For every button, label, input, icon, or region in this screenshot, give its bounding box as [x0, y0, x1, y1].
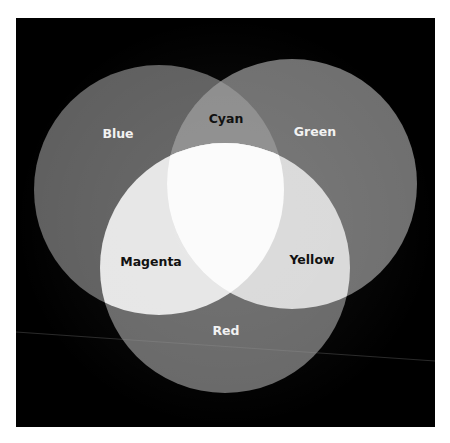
- label-cyan: Cyan: [209, 111, 244, 126]
- label-yellow: Yellow: [288, 252, 335, 267]
- label-red: Red: [212, 323, 239, 338]
- glow-overlay: [16, 18, 435, 427]
- label-blue: Blue: [102, 126, 133, 141]
- venn-diagram: Blue Green Red Cyan Magenta Yellow: [0, 0, 450, 443]
- label-green: Green: [294, 124, 336, 139]
- label-magenta: Magenta: [120, 254, 182, 269]
